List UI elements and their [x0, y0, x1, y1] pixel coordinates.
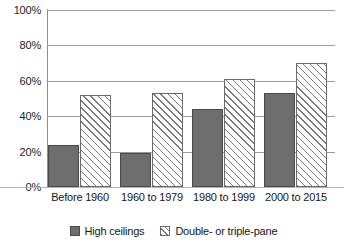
chart-legend: High ceilings Double- or triple-pane [0, 221, 347, 241]
x-axis-tick-label-1980-1999: 1980 to 1999 [193, 191, 255, 204]
x-axis-tick-labels: Before 1960 1960 to 1979 1980 to 1999 20… [47, 191, 335, 211]
x-axis-tick-label-1960-1979: 1960 to 1979 [121, 191, 183, 204]
y-axis-tick-label: 100% [14, 5, 41, 16]
x-axis-tick-label-2000-2015: 2000 to 2015 [265, 191, 327, 204]
x-axis-line [0, 187, 344, 188]
bar-high-ceilings-before-1960[interactable] [48, 145, 79, 187]
y-axis-tick-label: 20% [20, 147, 41, 158]
x-axis-tick-label-before-1960: Before 1960 [51, 191, 109, 204]
legend-swatch-solid-icon [70, 226, 80, 236]
bar-group-before-1960 [47, 10, 119, 187]
legend-item-double-triple-pane[interactable]: Double- or triple-pane [160, 225, 277, 237]
plot-area [47, 10, 335, 187]
y-axis-tick-labels: 100% 80% 60% 40% 20% 0% [0, 0, 44, 200]
legend-label-high-ceilings: High ceilings [85, 225, 145, 237]
bar-group-2000-2015 [263, 10, 335, 187]
bar-high-ceilings-1980-1999[interactable] [192, 109, 223, 187]
bar-double-triple-pane-1960-1979[interactable] [152, 93, 183, 187]
bar-group-1980-1999 [191, 10, 263, 187]
bar-double-triple-pane-before-1960[interactable] [80, 95, 111, 187]
legend-swatch-hatched-icon [160, 226, 170, 236]
bar-double-triple-pane-1980-1999[interactable] [224, 79, 255, 187]
bar-group-1960-1979 [119, 10, 191, 187]
plot-wrapper: 100% 80% 60% 40% 20% 0% [0, 0, 347, 200]
bar-high-ceilings-2000-2015[interactable] [264, 93, 295, 187]
bar-double-triple-pane-2000-2015[interactable] [296, 63, 327, 187]
legend-label-double-triple-pane: Double- or triple-pane [175, 225, 277, 237]
y-axis-tick-label: 60% [20, 76, 41, 87]
bar-high-ceilings-1960-1979[interactable] [120, 153, 151, 187]
y-axis-tick-label: 40% [20, 111, 41, 122]
y-axis-tick-label: 80% [20, 40, 41, 51]
bar-groups [47, 10, 335, 187]
legend-item-high-ceilings[interactable]: High ceilings [70, 225, 145, 237]
bar-chart: 100% 80% 60% 40% 20% 0% [0, 0, 347, 247]
